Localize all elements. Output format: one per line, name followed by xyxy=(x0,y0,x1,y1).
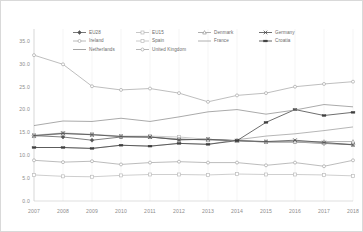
legend-item-ireland[interactable]: Ireland xyxy=(73,38,104,43)
legend-item-germany[interactable]: Germany xyxy=(259,30,295,35)
legend-label: EU15 xyxy=(152,30,164,35)
chart-legend: EU28EU15DenmarkGermanyIrelandSpainFrance… xyxy=(73,30,295,52)
series-marker xyxy=(177,143,181,145)
series-marker xyxy=(32,147,36,149)
series-marker xyxy=(236,161,239,164)
series-marker xyxy=(62,175,65,178)
legend-swatch-marker xyxy=(141,48,144,51)
y-tick-label: 10.0 xyxy=(19,152,30,158)
series-spain xyxy=(33,173,355,179)
data-series-layer xyxy=(32,54,355,179)
legend-item-denmark[interactable]: Denmark xyxy=(198,30,234,35)
series-marker xyxy=(351,111,355,113)
legend-swatch-marker xyxy=(141,31,144,34)
series-marker xyxy=(90,148,94,150)
legend-swatch-marker xyxy=(78,31,82,35)
series-marker xyxy=(352,80,355,83)
x-tick-label: 2018 xyxy=(347,208,359,214)
series-marker xyxy=(91,160,94,163)
series-line xyxy=(34,174,353,177)
series-united-kingdom xyxy=(33,159,355,168)
series-marker xyxy=(265,164,268,167)
series-eu28 xyxy=(32,134,355,147)
x-axis-tick-labels: 2007200820092010201120122013201420152016… xyxy=(28,208,359,214)
series-marker xyxy=(352,174,355,177)
y-tick-label: 15.0 xyxy=(19,129,30,135)
series-marker xyxy=(294,161,297,164)
series-marker xyxy=(149,173,152,176)
series-marker xyxy=(90,138,94,142)
legend-label: United Kingdom xyxy=(152,47,186,52)
x-tick-label: 2016 xyxy=(289,208,301,214)
series-marker xyxy=(33,173,36,176)
x-tick-label: 2008 xyxy=(57,208,69,214)
legend-label: Denmark xyxy=(214,30,234,35)
series-line xyxy=(34,55,353,102)
series-marker xyxy=(236,94,239,97)
series-marker xyxy=(91,85,94,88)
series-marker xyxy=(352,159,355,162)
series-line xyxy=(34,136,353,145)
legend-swatch-marker xyxy=(78,40,81,43)
legend-item-france[interactable]: France xyxy=(198,38,229,43)
legend-label: Croatia xyxy=(275,38,291,43)
legend-item-spain[interactable]: Spain xyxy=(136,38,165,43)
series-marker xyxy=(91,175,94,178)
x-tick-label: 2009 xyxy=(86,208,98,214)
y-tick-label: 20.0 xyxy=(19,106,30,112)
series-marker xyxy=(323,165,326,168)
legend-label: Netherlands xyxy=(89,47,115,52)
series-line xyxy=(34,134,353,142)
legend-swatch-marker xyxy=(141,40,144,43)
x-tick-label: 2011 xyxy=(144,208,156,214)
legend-label: EU28 xyxy=(89,30,101,35)
legend-item-eu28[interactable]: EU28 xyxy=(73,30,101,35)
series-marker xyxy=(323,82,326,85)
axis-lines xyxy=(34,29,353,201)
series-marker xyxy=(351,140,355,143)
y-tick-label: 5.0 xyxy=(22,175,30,181)
x-tick-label: 2010 xyxy=(115,208,127,214)
gridlines xyxy=(34,29,353,201)
legend-item-netherlands[interactable]: Netherlands xyxy=(73,47,115,52)
chart-canvas: 0.05.010.015.020.025.030.035.0 200720082… xyxy=(1,1,363,232)
x-tick-label: 2017 xyxy=(318,208,330,214)
legend-item-croatia[interactable]: Croatia xyxy=(259,38,291,43)
series-marker xyxy=(62,161,65,164)
series-marker xyxy=(120,163,123,166)
x-tick-label: 2014 xyxy=(231,208,243,214)
series-marker xyxy=(323,173,326,176)
series-marker xyxy=(236,173,239,176)
legend-label: Ireland xyxy=(89,38,104,43)
series-marker xyxy=(119,144,123,146)
x-tick-label: 2012 xyxy=(173,208,185,214)
series-marker xyxy=(62,63,65,66)
x-tick-label: 2015 xyxy=(260,208,272,214)
series-marker xyxy=(206,143,210,145)
y-tick-label: 35.0 xyxy=(19,38,30,44)
legend-item-united-kingdom[interactable]: United Kingdom xyxy=(136,47,186,52)
series-marker xyxy=(265,173,268,176)
legend-label: Germany xyxy=(275,30,295,35)
series-marker xyxy=(264,121,268,123)
y-axis-tick-labels: 0.05.010.015.020.025.030.035.0 xyxy=(19,38,30,204)
series-marker xyxy=(178,173,181,176)
series-france xyxy=(34,127,353,148)
series-marker xyxy=(178,160,181,163)
legend-swatch-marker xyxy=(203,31,207,34)
y-tick-label: 0.0 xyxy=(22,198,30,204)
series-marker xyxy=(120,88,123,91)
legend-swatch-marker xyxy=(264,40,268,42)
series-marker xyxy=(207,173,210,176)
series-marker xyxy=(33,54,36,57)
series-ireland xyxy=(33,54,355,104)
series-marker xyxy=(148,145,152,147)
series-line xyxy=(34,160,353,166)
series-marker xyxy=(33,159,36,162)
series-marker xyxy=(120,174,123,177)
series-marker xyxy=(294,173,297,176)
x-tick-label: 2013 xyxy=(202,208,214,214)
series-line xyxy=(34,127,353,148)
series-marker xyxy=(294,85,297,88)
series-netherlands xyxy=(34,105,353,126)
